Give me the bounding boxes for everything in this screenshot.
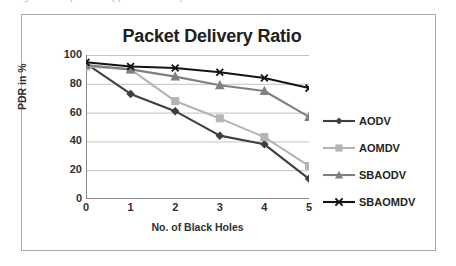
marker-square [261,134,268,141]
x-tick-label: 5 [298,201,320,213]
x-tick-label: 0 [75,201,97,213]
legend-key-square-icon [322,141,356,155]
x-tick-label: 1 [120,201,142,213]
x-axis-ticks: 012345 [86,201,309,219]
caption-strip: Figure: Comparison of packet delivery ra… [0,0,456,11]
chart-canvas [86,55,309,199]
legend-label: AODV [359,115,391,127]
y-tick-label: 60 [54,106,82,118]
plot-area [86,55,309,199]
chart-frame: Packet Delivery Ratio PDR in % 020406080… [21,14,436,251]
legend-key-diamond-icon [322,114,356,128]
legend-marker-diamond [335,117,342,124]
marker-square [306,162,309,169]
chart-title: Packet Delivery Ratio [82,26,342,47]
y-axis-ticks: 020406080100 [50,55,82,199]
chart-legend: AODVAOMDVSBAODVSBAOMDV [322,107,432,215]
y-tick-label: 80 [54,77,82,89]
y-axis-label: PDR in % [16,63,28,110]
marker-square [216,115,223,122]
legend-key-x-icon [322,195,356,209]
legend-label: SBAODV [359,169,406,181]
series-aodv [86,60,309,182]
legend-item-aomdv[interactable]: AOMDV [322,134,432,161]
legend-item-sbaomdv[interactable]: SBAOMDV [322,188,432,215]
x-axis-label: No. of Black Holes [86,221,309,233]
legend-label: AOMDV [359,142,400,154]
x-tick-label: 2 [164,201,186,213]
legend-label: SBAOMDV [359,196,415,208]
y-tick-label: 20 [54,163,82,175]
legend-key-triangle-icon [322,168,356,182]
legend-marker-square [335,144,342,151]
legend-item-sbaodv[interactable]: SBAODV [322,161,432,188]
x-tick-label: 4 [253,201,275,213]
legend-item-aodv[interactable]: AODV [322,107,432,134]
marker-square [172,98,179,105]
figure-caption: Figure: Comparison of packet delivery ra… [14,0,209,2]
y-tick-label: 40 [54,134,82,146]
x-tick-label: 3 [209,201,231,213]
y-tick-label: 100 [54,48,82,60]
